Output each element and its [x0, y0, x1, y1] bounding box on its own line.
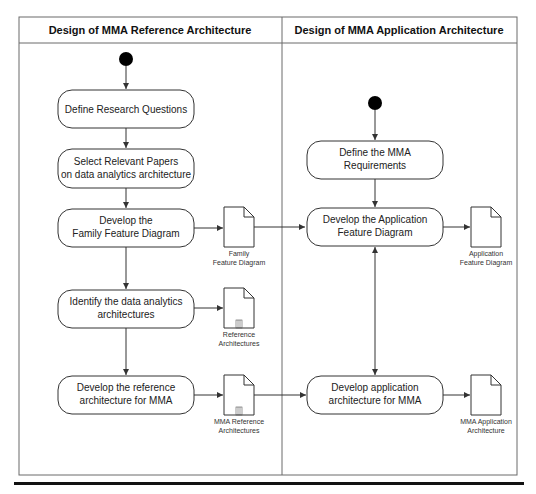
svg-text:Develop the: Develop the: [99, 215, 153, 226]
svg-text:Select Relevant Papers: Select Relevant Papers: [74, 156, 179, 167]
node-select-relevant-papers[interactable]: Select Relevant Papers on data analytics…: [58, 149, 194, 188]
svg-text:Develop application: Develop application: [331, 382, 418, 393]
svg-text:Reference: Reference: [223, 331, 255, 338]
artifact-reference-architectures[interactable]: Reference Architectures: [219, 288, 260, 347]
svg-text:MMA Reference: MMA Reference: [214, 418, 264, 425]
svg-text:Feature Diagram: Feature Diagram: [337, 227, 412, 238]
svg-text:on data analytics architecture: on data analytics architecture: [61, 169, 192, 180]
svg-text:Architectures: Architectures: [219, 340, 260, 347]
svg-text:Family: Family: [229, 250, 250, 258]
svg-text:Develop the Application: Develop the Application: [323, 214, 428, 225]
node-develop-application-feature-diagram[interactable]: Develop the Application Feature Diagram: [307, 208, 443, 246]
svg-text:architectures: architectures: [97, 309, 154, 320]
svg-text:MMA Application: MMA Application: [460, 418, 512, 426]
svg-text:Feature Diagram: Feature Diagram: [460, 259, 513, 267]
document-icon: [471, 207, 501, 247]
node-define-research-questions[interactable]: Define Research Questions: [58, 90, 194, 128]
svg-text:Family Feature Diagram: Family Feature Diagram: [72, 228, 179, 239]
svg-text:Architectures: Architectures: [219, 427, 260, 434]
svg-text:Define the MMA: Define the MMA: [339, 147, 411, 158]
svg-text:Requirements: Requirements: [344, 160, 406, 171]
lane-title-application: Design of MMA Application Architecture: [294, 24, 503, 36]
node-identify-architectures[interactable]: Identify the data analytics architecture…: [58, 290, 194, 328]
node-develop-family-feature-diagram[interactable]: Develop the Family Feature Diagram: [58, 209, 194, 247]
activity-diagram: Design of MMA Reference Architecture Des…: [0, 0, 536, 494]
artifact-application-feature-diagram[interactable]: Application Feature Diagram: [460, 207, 513, 267]
svg-text:architecture for MMA: architecture for MMA: [80, 395, 173, 406]
svg-text:Develop the reference: Develop the reference: [77, 382, 176, 393]
document-icon: [471, 375, 501, 415]
start-node-reference: [119, 52, 133, 66]
artifact-mma-application-architecture[interactable]: MMA Application Architecture: [460, 375, 512, 434]
svg-text:Application: Application: [469, 250, 503, 258]
lane-title-reference: Design of MMA Reference Architecture: [49, 24, 252, 36]
document-collection-icon: [224, 375, 254, 415]
svg-text:architecture for MMA: architecture for MMA: [329, 395, 422, 406]
artifact-family-feature-diagram[interactable]: Family Feature Diagram: [213, 207, 266, 267]
node-develop-application-architecture[interactable]: Develop application architecture for MMA: [307, 376, 443, 414]
svg-text:Feature Diagram: Feature Diagram: [213, 259, 266, 267]
document-collection-icon: [224, 288, 254, 328]
svg-text:Identify the data analytics: Identify the data analytics: [70, 296, 183, 307]
node-develop-reference-architecture[interactable]: Develop the reference architecture for M…: [58, 376, 194, 414]
start-node-application: [368, 96, 382, 110]
artifact-mma-reference-architectures[interactable]: MMA Reference Architectures: [214, 375, 264, 434]
svg-text:Define Research Questions: Define Research Questions: [65, 104, 187, 115]
document-icon: [224, 207, 254, 247]
node-define-mma-requirements[interactable]: Define the MMA Requirements: [307, 141, 443, 179]
svg-text:Architecture: Architecture: [467, 427, 504, 434]
bottom-rule: [14, 482, 524, 485]
